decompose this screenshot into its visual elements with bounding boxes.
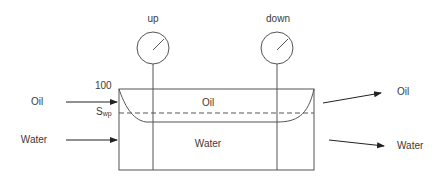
water-outlet-arrow-icon [329,140,384,146]
saturation-profile-curve [119,89,314,122]
swp-label-subscript: wp [103,110,112,117]
gauge-dial-icon [137,32,169,64]
up-gauge-label: up [147,13,158,25]
upstream-pressure-gauge [137,32,169,170]
oil-outlet-arrow-icon [323,93,381,103]
oil-inlet-label: Oil [31,96,43,108]
swp-label: Swp [96,106,112,120]
core-sample-box [119,89,314,170]
gauge-dial-icon [261,32,293,64]
gauge-needle [153,39,164,50]
top-value-label: 100 [95,80,112,92]
swp-label-main: S [96,106,103,117]
oil-outlet-label: Oil [397,86,409,98]
water-outlet-label: Water [397,140,423,152]
core-flood-diagram [0,0,447,184]
down-gauge-label: down [266,13,290,25]
water-inlet-label: Water [21,134,47,146]
core-oil-zone-label: Oil [202,97,214,109]
gauge-needle [277,39,288,50]
downstream-pressure-gauge [261,32,293,170]
core-water-zone-label: Water [195,138,221,150]
